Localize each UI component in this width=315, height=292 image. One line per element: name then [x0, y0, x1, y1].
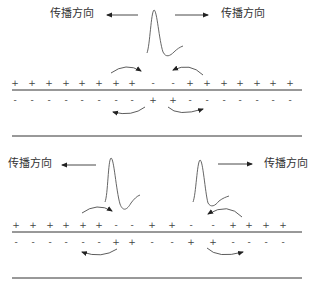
positive-charge: + [11, 79, 19, 88]
positive-charge: + [186, 79, 194, 88]
positive-charge: + [286, 79, 294, 88]
positive-charge: + [78, 79, 86, 88]
positive-charge: + [236, 79, 244, 88]
positive-charge: + [29, 221, 37, 230]
propagation-direction-label: 传播方向 [221, 8, 265, 20]
action-potential-waveform [147, 10, 183, 56]
diagram-canvas [0, 0, 315, 292]
positive-charge: + [46, 221, 54, 230]
negative-charge: - [12, 238, 20, 247]
propagation-direction-label: 传播方向 [264, 158, 308, 170]
negative-charge: - [187, 221, 195, 230]
negative-charge: - [236, 96, 244, 105]
negative-charge: - [209, 221, 217, 230]
negative-charge: - [62, 238, 70, 247]
positive-charge: + [220, 79, 228, 88]
action-potential-waveform [193, 160, 229, 206]
positive-charge: + [148, 221, 156, 230]
positive-charge: + [269, 79, 277, 88]
local-current-arrow [168, 107, 203, 113]
negative-charge: - [253, 96, 261, 105]
positive-charge: + [95, 79, 103, 88]
negative-charge: - [11, 96, 19, 105]
positive-charge: + [112, 238, 120, 247]
local-current-arrow [113, 107, 145, 114]
positive-charge: + [112, 79, 120, 88]
local-current-arrow [173, 67, 203, 75]
negative-charge: - [45, 96, 53, 105]
negative-charge: - [148, 238, 156, 247]
local-current-arrow [82, 249, 117, 255]
negative-charge: - [95, 96, 103, 105]
propagation-direction-label: 传播方向 [8, 158, 52, 170]
positive-charge: + [45, 79, 53, 88]
action-potential-waveform [105, 158, 140, 209]
local-current-arrow [207, 248, 243, 255]
top-panel [12, 10, 302, 136]
negative-charge: - [203, 96, 211, 105]
positive-charge: + [128, 238, 136, 247]
positive-charge: + [149, 96, 157, 105]
positive-charge: + [12, 221, 20, 230]
positive-charge: + [62, 221, 70, 230]
positive-charge: + [95, 221, 103, 230]
positive-charge: + [253, 79, 261, 88]
negative-charge: - [220, 96, 228, 105]
positive-charge: + [28, 79, 36, 88]
negative-charge: - [262, 238, 270, 247]
negative-charge: - [286, 96, 294, 105]
local-current-arrow [208, 209, 242, 217]
negative-charge: - [112, 221, 120, 230]
positive-charge: + [168, 221, 176, 230]
negative-charge: - [269, 96, 277, 105]
positive-charge: + [203, 79, 211, 88]
propagation-direction-label: 传播方向 [50, 8, 94, 20]
negative-charge: - [128, 96, 136, 105]
negative-charge: - [79, 238, 87, 247]
negative-charge: - [229, 238, 237, 247]
positive-charge: + [245, 221, 253, 230]
positive-charge: + [79, 221, 87, 230]
negative-charge: - [168, 238, 176, 247]
negative-charge: - [245, 238, 253, 247]
negative-charge: - [169, 79, 177, 88]
local-current-arrow [111, 67, 141, 73]
positive-charge: + [169, 96, 177, 105]
positive-charge: + [229, 221, 237, 230]
negative-charge: - [112, 96, 120, 105]
negative-charge: - [186, 96, 194, 105]
negative-charge: - [62, 96, 70, 105]
negative-charge: - [95, 238, 103, 247]
local-current-arrow [82, 207, 112, 213]
negative-charge: - [29, 238, 37, 247]
bottom-panel [12, 158, 302, 278]
positive-charge: + [262, 221, 270, 230]
negative-charge: - [78, 96, 86, 105]
negative-charge: - [128, 221, 136, 230]
positive-charge: + [187, 238, 195, 247]
negative-charge: - [149, 79, 157, 88]
positive-charge: + [209, 238, 217, 247]
negative-charge: - [46, 238, 54, 247]
positive-charge: + [128, 79, 136, 88]
positive-charge: + [62, 79, 70, 88]
positive-charge: + [279, 221, 287, 230]
negative-charge: - [279, 238, 287, 247]
negative-charge: - [28, 96, 36, 105]
